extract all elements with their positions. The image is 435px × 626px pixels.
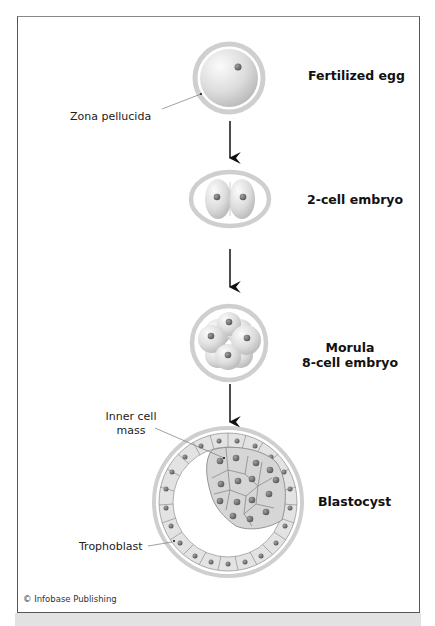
label-zona-pellucida: Zona pellucida bbox=[70, 110, 151, 123]
stage-label-morula: Morula bbox=[305, 340, 395, 355]
two-cell-embryo-illustration bbox=[191, 172, 269, 226]
blastocyst-illustration bbox=[148, 428, 302, 576]
zona-pellucida-pointer bbox=[162, 94, 201, 109]
stage-label-2-cell-embryo: 2-cell embryo bbox=[307, 192, 403, 207]
copyright-credit: © Infobase Publishing bbox=[23, 594, 117, 604]
fertilized-egg-illustration bbox=[162, 44, 263, 112]
stage-label-fertilized-egg: Fertilized egg bbox=[308, 68, 405, 83]
morula-illustration bbox=[192, 306, 266, 380]
label-inner-cell-mass-line2: mass bbox=[101, 424, 161, 437]
label-trophoblast: Trophoblast bbox=[79, 540, 143, 553]
label-inner-cell-mass-line1: Inner cell bbox=[101, 410, 161, 423]
embryo-development-diagram bbox=[0, 0, 435, 626]
stage-label-blastocyst: Blastocyst bbox=[318, 494, 391, 509]
stage-label-8-cell-embryo: 8-cell embryo bbox=[302, 355, 398, 370]
